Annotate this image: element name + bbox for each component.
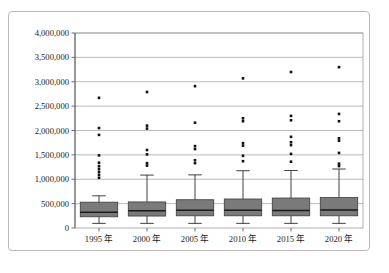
outlier-point [338,66,341,69]
outlier-point [290,144,293,147]
outlier-point [242,77,245,80]
outlier-point [290,115,293,118]
outlier-point [146,91,149,94]
outlier-point [146,153,149,156]
outlier-point [242,160,245,163]
outlier-point [194,85,197,88]
y-axis-tick-label: 2,500,000 [35,101,69,111]
outlier-point [290,141,293,144]
box-rect [176,200,213,216]
outlier-point [146,127,149,130]
outlier-point [98,161,101,164]
y-axis-tick-label: 0 [65,223,69,233]
box-plot-item [320,66,357,224]
x-axis-labels-group: 1995 年2000 年2005 年2010 年2015 年2020 年 [85,228,353,244]
outlier-point [290,160,293,163]
outlier-point [98,174,101,177]
outlier-point [146,124,149,127]
outlier-point [338,137,341,140]
box-plot-item [80,97,117,224]
box-plot-item [272,71,309,224]
outlier-point [242,117,245,120]
outlier-point [194,159,197,162]
outlier-point [242,155,245,158]
outlier-point [290,136,293,139]
y-axis-tick-label: 4,000,000 [35,28,69,38]
x-axis-category-label: 2010 年 [229,233,257,244]
box-rect [320,198,357,216]
outlier-point [98,165,101,168]
outlier-point [146,162,149,165]
outlier-point [98,176,101,179]
x-axis-category-label: 2000 年 [133,233,161,244]
y-axis-tick-label: 500,000 [41,199,69,209]
outlier-point [338,120,341,123]
box-plot-item [224,77,261,223]
y-axis-tick-label: 1,000,000 [35,174,69,184]
outlier-point [194,145,197,148]
x-axis-category-label: 1995 年 [85,233,113,244]
outlier-point [98,134,101,137]
x-axis-category-label: 2020 年 [325,233,353,244]
outlier-point [290,153,293,156]
box-rect [128,202,165,216]
outlier-point [242,142,245,145]
outlier-point [338,152,341,155]
outlier-point [338,165,341,168]
box-rect [272,198,309,216]
outlier-point [98,168,101,171]
outlier-point [290,71,293,74]
outlier-point [98,97,101,100]
box-plot-chart: 0500,0001,000,0001,500,0002,000,0002,500… [9,12,371,252]
outlier-point [146,164,149,167]
x-axis-category-label: 2005 年 [181,233,209,244]
y-axis-tick-label: 1,500,000 [35,150,69,160]
outlier-point [194,148,197,151]
boxes-group [80,66,357,224]
outlier-point [242,120,245,123]
gridlines-group [72,33,364,228]
box-plot-item [176,85,213,224]
outlier-point [194,121,197,124]
outlier-point [194,162,197,165]
outlier-point [146,149,149,152]
x-axis-category-label: 2015 年 [277,233,305,244]
outlier-point [290,119,293,122]
box-plot-item [128,91,165,224]
box-rect [224,199,261,216]
outlier-point [98,154,101,157]
outlier-point [338,162,341,165]
outlier-point [338,139,341,142]
box-rect [80,202,117,217]
y-axis-tick-label: 2,000,000 [35,126,69,136]
outlier-point [242,144,245,147]
y-axis-tick-label: 3,500,000 [35,52,69,62]
outlier-point [98,171,101,174]
y-axis-tick-label: 3,000,000 [35,77,69,87]
chart-svg: 0500,0001,000,0001,500,0002,000,0002,500… [9,12,371,252]
outlier-point [98,127,101,130]
outlier-point [338,113,341,116]
figure-frame: 0500,0001,000,0001,500,0002,000,0002,500… [8,11,370,251]
y-axis-labels-group: 0500,0001,000,0001,500,0002,000,0002,500… [35,28,69,233]
